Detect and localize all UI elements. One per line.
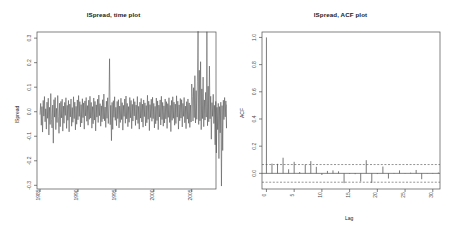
x-tick-label: 0 <box>261 193 267 196</box>
x-tick-label: 1995 <box>111 189 117 200</box>
y-tick-label: 1.0 <box>251 34 257 41</box>
time-plot-y-axis-title: lSpread <box>14 105 20 122</box>
y-tick-label: 0.0 <box>251 170 257 177</box>
y-tick-label: 0.8 <box>251 61 257 68</box>
x-tick-label: 5 <box>289 193 295 196</box>
y-tick-label: -0.1 <box>26 132 32 141</box>
x-tick-label: 2005 <box>187 189 193 200</box>
panel-time-plot: lSpread, time plot -0.3-0.2-0.10.00.10.2… <box>0 0 227 238</box>
panel-acf-plot: lSpread, ACF plot 0.00.20.40.60.81.00510… <box>227 0 454 238</box>
y-tick-label: 0.3 <box>26 34 32 41</box>
x-tick-label: 20 <box>372 192 378 198</box>
time-plot-svg: -0.3-0.2-0.10.00.10.20.31985199019952000… <box>0 0 227 238</box>
acf-plot-svg: 0.00.20.40.60.81.0051015202530 <box>227 0 454 238</box>
figure-container: lSpread, time plot -0.3-0.2-0.10.00.10.2… <box>0 0 454 238</box>
y-tick-label: 0.0 <box>26 108 32 115</box>
x-tick-label: 2000 <box>149 189 155 200</box>
y-tick-label: -0.3 <box>26 181 32 190</box>
y-tick-label: 0.2 <box>251 142 257 149</box>
acf-plot-x-axis-title: Lag <box>345 215 353 221</box>
x-tick-label: 1985 <box>35 189 41 200</box>
time-series-line <box>40 31 227 186</box>
y-tick-label: 0.1 <box>26 84 32 91</box>
y-tick-label: 0.2 <box>26 59 32 66</box>
x-tick-label: 30 <box>428 192 434 198</box>
acf-plot-y-axis-title: ACF <box>239 108 245 118</box>
x-tick-label: 15 <box>345 192 351 198</box>
y-tick-label: 0.4 <box>251 115 257 122</box>
plot-box <box>262 32 440 189</box>
x-tick-label: 1990 <box>73 189 79 200</box>
x-tick-label: 10 <box>317 192 323 198</box>
y-tick-label: -0.2 <box>26 156 32 165</box>
x-tick-label: 25 <box>400 192 406 198</box>
y-tick-label: 0.6 <box>251 88 257 95</box>
